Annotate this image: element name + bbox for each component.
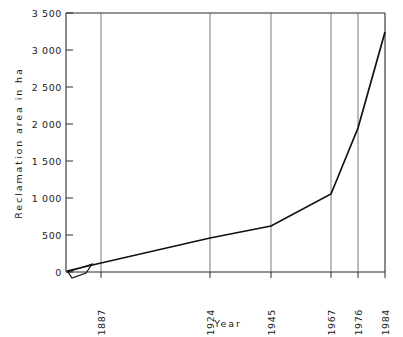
line-chart: 0 500 1 000 1 500 2 000 2 500 3 000 3 50…: [0, 0, 403, 337]
y-tick-marks: [66, 13, 73, 272]
y-tick-label-3000: 3 000: [32, 45, 62, 56]
y-tick-label-1500: 1 500: [32, 156, 62, 167]
y-tick-label-3500: 3 500: [32, 8, 62, 19]
chart-figure: 0 500 1 000 1 500 2 000 2 500 3 000 3 50…: [0, 0, 403, 337]
x-tick-marks: [101, 272, 385, 278]
y-tick-label-2500: 2 500: [32, 82, 62, 93]
x-tick-label-1967: 1967: [326, 309, 337, 336]
y-axis-title: Reclamation area in ha: [13, 67, 24, 219]
y-tick-label-0: 0: [55, 267, 62, 278]
x-tick-label-1887: 1887: [96, 309, 107, 336]
data-series-line: [67, 32, 385, 271]
x-tick-label-1976: 1976: [353, 309, 364, 336]
y-tick-label-1000: 1 000: [32, 193, 62, 204]
y-tick-label-500: 500: [42, 230, 62, 241]
x-tick-label-1984: 1984: [380, 309, 391, 336]
gridlines-vertical: [101, 13, 358, 272]
x-tick-label-1945: 1945: [266, 309, 277, 336]
y-tick-labels: 0 500 1 000 1 500 2 000 2 500 3 000 3 50…: [32, 8, 62, 278]
plot-frame: [66, 13, 385, 272]
x-axis-title: Year: [213, 318, 242, 329]
x-tick-labels: 1887 1924 1945 1967 1976 1984: [96, 309, 391, 336]
y-tick-label-2000: 2 000: [32, 119, 62, 130]
